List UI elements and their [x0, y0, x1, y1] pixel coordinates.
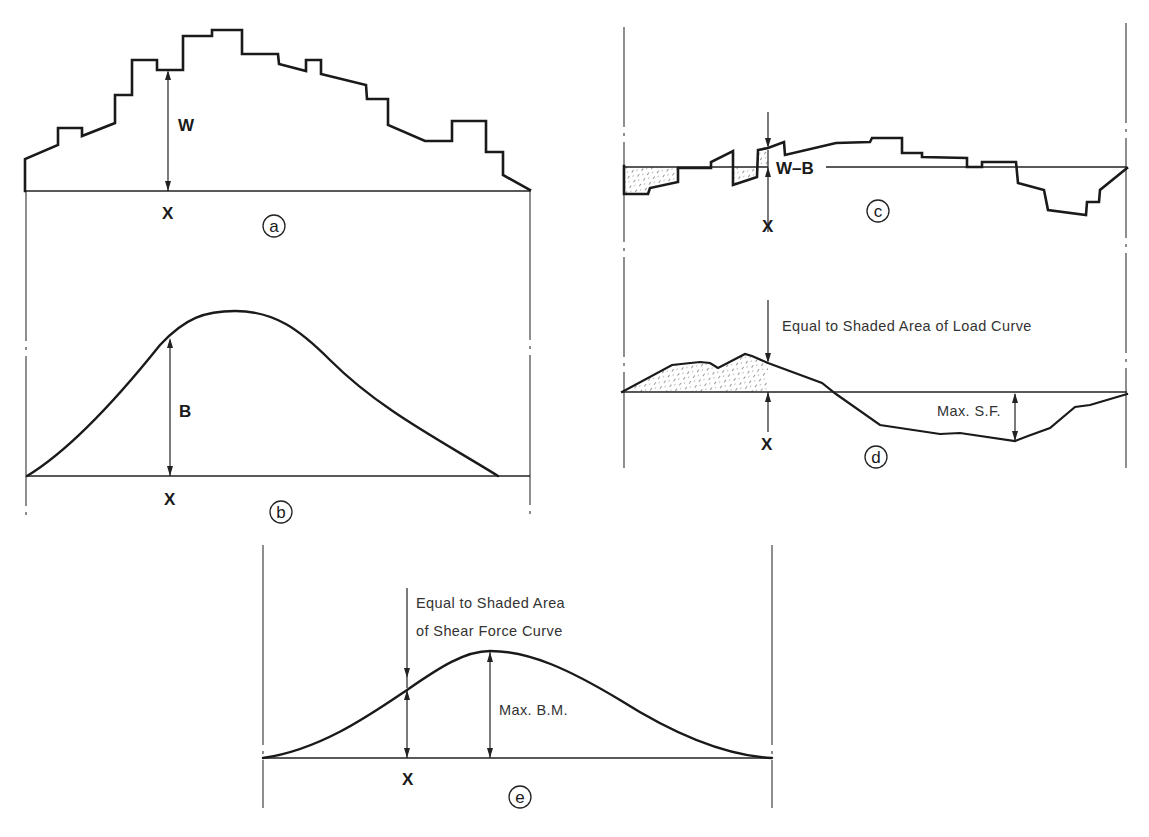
caption-letter-d: d: [871, 448, 880, 467]
arrowhead-down-icon: [167, 466, 173, 476]
arrowhead-down-icon: [165, 181, 171, 191]
arrowhead-down-icon: [404, 748, 410, 758]
bm-station-arrow: [404, 588, 410, 758]
panel-b-buoyancy-curve: B X b: [26, 311, 530, 523]
panel-c-caption: c: [867, 200, 889, 222]
ship-strength-diagram: W X a B X b: [0, 0, 1149, 837]
caption-letter-a: a: [269, 217, 279, 236]
station-x-label-b: X: [164, 490, 176, 509]
load-curve-shaded-area: [624, 148, 768, 194]
load-shaded-region: [733, 167, 758, 185]
panel-a-caption: a: [263, 215, 285, 237]
buoyancy-label: B: [179, 402, 191, 421]
load-shaded-region: [624, 167, 711, 194]
max-sf-dimension-arrow: [1012, 393, 1018, 441]
arrowhead-up-icon: [765, 392, 771, 402]
arrowhead-up-icon: [165, 70, 171, 80]
max-shear-force-label: Max. S.F.: [937, 403, 1001, 419]
panel-a-weight-curve: W X a: [25, 30, 530, 515]
arrowhead-up-icon: [1012, 393, 1018, 403]
max-bm-dimension-arrow: [487, 652, 493, 758]
arrowhead-down-icon: [487, 748, 493, 758]
panel-e-caption: e: [509, 786, 531, 808]
weight-curve: [25, 30, 530, 191]
panel-d-caption: d: [865, 446, 887, 468]
arrowhead-down-icon: [404, 668, 410, 678]
buoyancy-dimension-arrow: [167, 338, 173, 476]
station-x-label-c: X: [762, 217, 774, 236]
arrowhead-up-icon: [167, 338, 173, 348]
panel-b-caption: b: [270, 501, 292, 523]
max-bending-moment-label: Max. B.M.: [499, 702, 568, 718]
weight-label: W: [178, 116, 195, 135]
shear-curve-shaded-area: [622, 354, 768, 392]
panel-c-load-curve: W–B X c: [624, 112, 1127, 236]
caption-letter-b: b: [276, 503, 285, 522]
arrowhead-up-icon: [487, 652, 493, 662]
weight-dimension-arrow: [165, 70, 171, 191]
load-label: W–B: [776, 159, 814, 178]
panel-e-bending-moment-curve: Equal to Shaded Area of Shear Force Curv…: [263, 545, 772, 808]
load-dimension-arrow: [765, 112, 771, 232]
station-x-label-e: X: [402, 770, 414, 789]
station-x-label-d: X: [761, 435, 773, 454]
panel-d-shear-force-curve: Equal to Shaded Area of Load Curve Max. …: [622, 300, 1127, 468]
shear-area-note: Equal to Shaded Area of Load Curve: [782, 318, 1032, 334]
bm-area-note-line2: of Shear Force Curve: [416, 623, 563, 639]
caption-letter-e: e: [515, 788, 524, 807]
caption-letter-c: c: [874, 202, 883, 221]
station-x-label-a: X: [162, 204, 174, 223]
bm-area-note-line1: Equal to Shaded Area: [416, 595, 566, 611]
arrowhead-up-icon: [765, 167, 771, 177]
buoyancy-curve: [27, 311, 498, 476]
